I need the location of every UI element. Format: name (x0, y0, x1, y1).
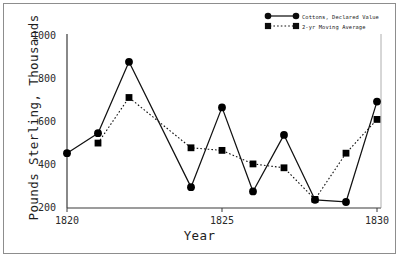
data-point-cottons (280, 131, 288, 139)
data-point-moving-average (250, 161, 257, 168)
data-point-cottons (94, 129, 102, 137)
data-point-moving-average (374, 116, 381, 123)
data-point-cottons (187, 183, 195, 191)
data-point-cottons (311, 196, 319, 204)
data-point-moving-average (219, 147, 226, 154)
x-tick-marks (67, 208, 377, 212)
data-point-cottons (249, 188, 257, 196)
data-point-moving-average (188, 144, 195, 151)
data-point-moving-average (126, 94, 133, 101)
chart-figure: Pounds Sterling, Thousands Year 1000 800… (0, 0, 399, 257)
data-point-moving-average (281, 164, 288, 171)
data-point-moving-average (343, 150, 350, 157)
plot-area (0, 0, 399, 257)
data-point-cottons (63, 149, 71, 157)
data-point-moving-average (95, 140, 102, 147)
data-point-cottons (373, 98, 381, 106)
series-cottons-declared-value (63, 58, 381, 206)
data-point-cottons (342, 198, 350, 206)
axis-lines (67, 34, 381, 208)
data-point-cottons (218, 103, 226, 111)
data-point-cottons (125, 58, 133, 66)
legend-glyphs (265, 13, 300, 29)
